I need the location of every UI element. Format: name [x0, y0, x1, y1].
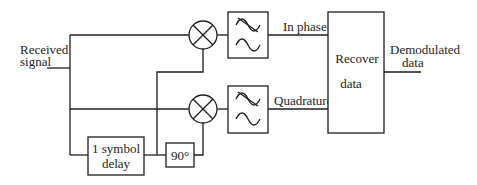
phase-shift-label: 90°	[171, 148, 189, 163]
in-phase-label: In phase	[283, 19, 327, 34]
lowpass-filter-bottom-icon	[228, 86, 268, 133]
demodulator-block-diagram: 1 symbol delay 90° In phase Quadrature	[0, 0, 477, 185]
quadrature-label: Quadrature	[274, 93, 333, 108]
mixer-top-icon	[189, 21, 217, 49]
recover-label-line2: data	[340, 76, 362, 91]
recover-data-block	[328, 12, 384, 133]
recover-label-line1: Recover	[335, 51, 379, 66]
output-label-line1: Demodulated	[390, 42, 461, 57]
delay-label-line2: delay	[102, 156, 131, 171]
delay-label-line1: 1 symbol	[92, 141, 140, 156]
input-label-line2: signal	[20, 54, 51, 69]
output-label-line2: data	[402, 55, 424, 70]
lowpass-filter-top-icon	[228, 12, 268, 58]
wire-phase-to-mixer-bottom	[194, 123, 203, 155]
mixer-bottom-icon	[189, 95, 217, 123]
